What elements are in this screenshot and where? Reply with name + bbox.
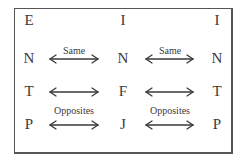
double-arrow-icon <box>146 55 193 63</box>
double-arrow-icon <box>50 121 98 129</box>
double-arrow-icon <box>50 88 98 96</box>
double-arrow-icons <box>0 0 247 166</box>
double-arrow-icon <box>50 55 98 63</box>
double-arrow-icon <box>146 121 193 129</box>
double-arrow-icon <box>146 88 193 96</box>
